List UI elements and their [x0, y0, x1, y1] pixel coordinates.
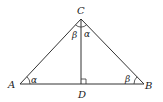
- angle-arc-b: [134, 77, 137, 84]
- label-c: C: [77, 5, 85, 16]
- label-d: D: [77, 89, 86, 100]
- angle-arc-a: [27, 77, 30, 84]
- right-angle-marker: [81, 79, 86, 84]
- triangle-diagram: C A B D α β β α: [0, 0, 163, 102]
- angle-label-b: β: [124, 74, 130, 84]
- label-b: B: [144, 80, 152, 91]
- label-a: A: [7, 79, 15, 90]
- angle-label-acd: β: [71, 30, 77, 40]
- angle-label-dcb: α: [84, 29, 90, 39]
- angle-label-a: α: [31, 75, 37, 85]
- segment-bc: [81, 19, 144, 84]
- segment-ac: [20, 19, 81, 84]
